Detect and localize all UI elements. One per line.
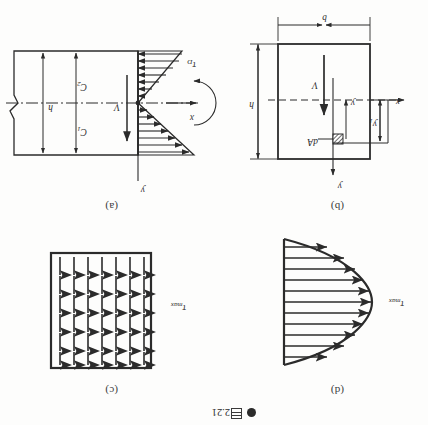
panel-d: (d)	[198, 210, 406, 405]
caption-cjk-glyph	[231, 408, 242, 419]
stress-arrows-upper-a	[138, 110, 189, 152]
section-outline-c	[51, 253, 151, 368]
shear-arrows-d	[284, 247, 371, 357]
panel-d-drawing	[198, 217, 406, 377]
figure-caption: 2.21	[212, 407, 256, 419]
label-width-b: b	[322, 13, 327, 23]
label-c2-a: C2	[77, 80, 87, 92]
label-x-axis-b: x	[396, 97, 400, 107]
label-height-b: h	[249, 100, 254, 110]
panel-d-label: (d)	[331, 385, 344, 397]
label-y-axis-b: y	[338, 181, 342, 191]
panel-c-drawing	[0, 215, 200, 375]
panel-c-label: (c)	[105, 385, 118, 397]
label-shear-resultant-a: V	[114, 102, 120, 112]
panel-b: (b)	[198, 0, 406, 215]
label-x-axis-a: x	[190, 113, 194, 123]
figure-sheet: 2.21 (a)	[0, 0, 428, 425]
label-height-a: h	[48, 103, 53, 113]
label-c1-a: C1	[77, 125, 87, 137]
label-element-da-b: dA	[307, 137, 318, 147]
label-y-axis-a: y	[141, 185, 145, 195]
panel-c: (c)	[0, 210, 200, 405]
label-tau-max-d: τmax	[389, 297, 404, 309]
label-tau-max-c: τmax	[171, 301, 186, 313]
stress-triangle-lower-a	[138, 51, 182, 103]
stress-arrows-lower-a	[138, 54, 182, 96]
panel-a-drawing	[0, 3, 200, 203]
label-shear-resultant-b: V	[312, 80, 318, 90]
label-y1-b: y1	[369, 117, 377, 129]
panel-a: (a)	[0, 0, 200, 215]
panel-b-drawing	[198, 0, 406, 203]
label-y-ordinate-b: y	[351, 98, 355, 108]
stress-triangle-upper-a	[138, 103, 194, 155]
caption-number: 2.21	[212, 407, 230, 418]
shear-arrow-grid-c	[60, 257, 144, 365]
label-tau-d-a: τD	[188, 58, 196, 70]
height-dimension-b	[250, 44, 278, 159]
caption-bullet-icon	[247, 408, 256, 417]
